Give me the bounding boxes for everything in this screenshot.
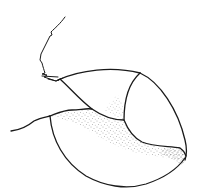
upper-lobe: [58, 69, 140, 80]
left-tail: [11, 116, 50, 131]
illustration-canvas: Pen-and-ink line drawing of a rounded, s…: [0, 0, 200, 195]
line-drawing: [0, 0, 200, 195]
stalk: [40, 17, 65, 81]
stippling: [50, 94, 185, 166]
